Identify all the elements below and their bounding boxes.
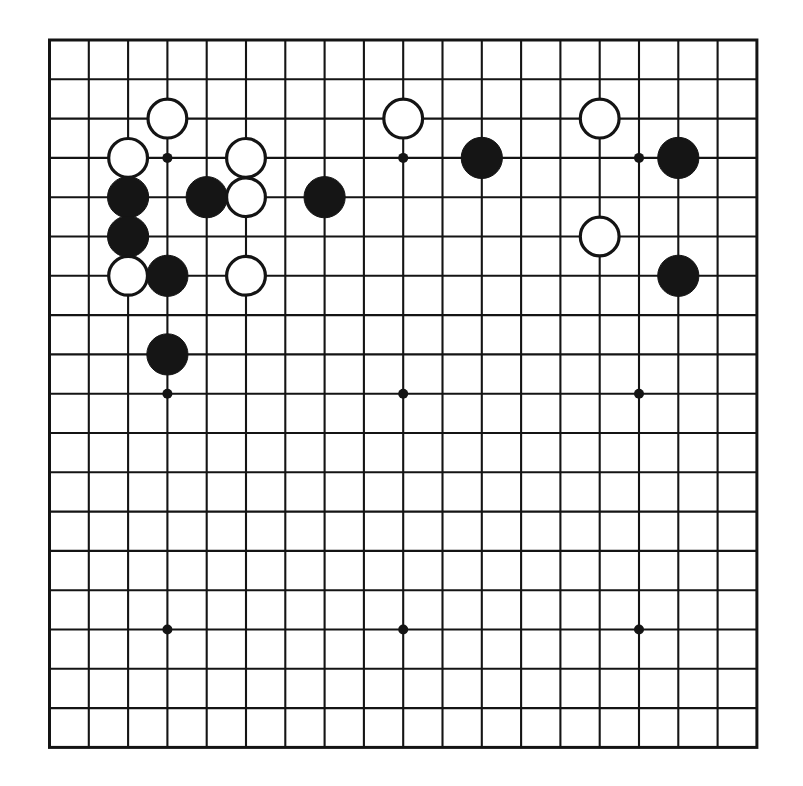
- black-stone[interactable]: [186, 177, 227, 218]
- white-stone[interactable]: [227, 178, 266, 217]
- star-point: [634, 625, 644, 635]
- white-stone[interactable]: [580, 217, 619, 256]
- white-stone[interactable]: [580, 99, 619, 138]
- star-point: [398, 153, 408, 163]
- black-stone[interactable]: [108, 177, 149, 218]
- white-stone[interactable]: [148, 99, 187, 138]
- star-point: [634, 153, 644, 163]
- go-board-diagram: [0, 0, 803, 786]
- black-stone[interactable]: [108, 216, 149, 257]
- star-point: [634, 389, 644, 399]
- black-stone[interactable]: [658, 137, 699, 178]
- star-point: [162, 153, 172, 163]
- black-stone[interactable]: [304, 177, 345, 218]
- white-stone[interactable]: [384, 99, 423, 138]
- black-stone[interactable]: [461, 137, 502, 178]
- white-stone[interactable]: [109, 139, 148, 178]
- white-stone[interactable]: [227, 139, 266, 178]
- black-stone[interactable]: [658, 255, 699, 296]
- star-point: [398, 389, 408, 399]
- star-point: [398, 625, 408, 635]
- goban-svg[interactable]: [0, 0, 803, 786]
- star-point: [162, 389, 172, 399]
- star-point: [162, 625, 172, 635]
- black-stone[interactable]: [147, 334, 188, 375]
- black-stone[interactable]: [147, 255, 188, 296]
- white-stone[interactable]: [109, 256, 148, 295]
- white-stone[interactable]: [227, 256, 266, 295]
